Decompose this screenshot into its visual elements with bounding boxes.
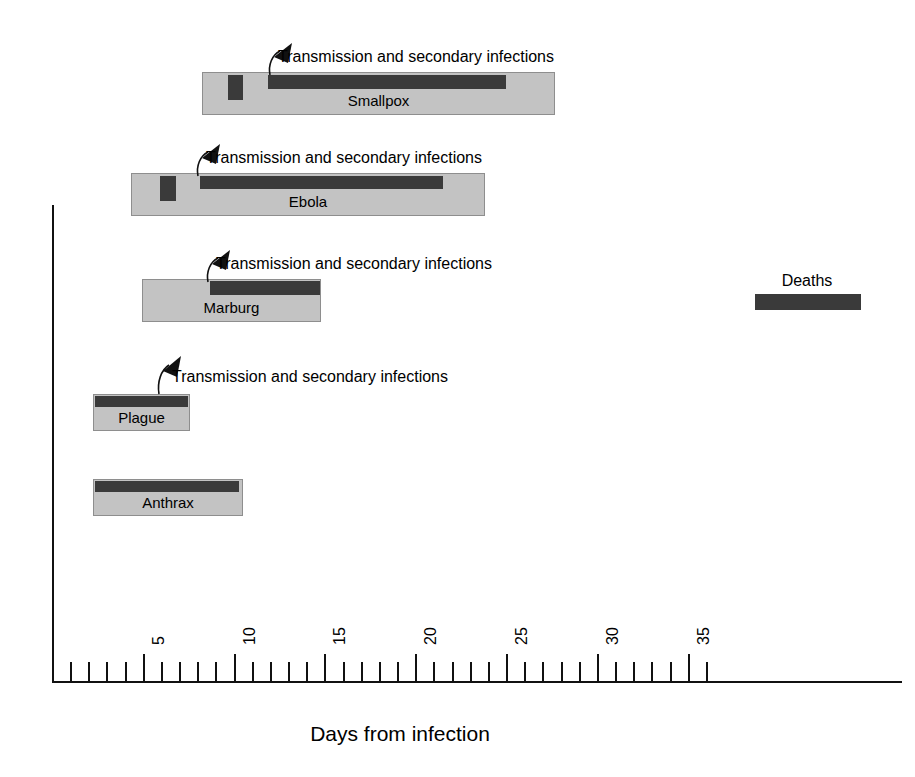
- x-axis-minor-tick: [670, 662, 672, 681]
- legend-label-deaths: Deaths: [752, 272, 862, 290]
- x-axis-minor-tick: [561, 662, 563, 681]
- x-axis-title: Days from infection: [230, 722, 570, 746]
- x-axis-major-tick: [143, 654, 145, 681]
- x-axis-minor-tick: [433, 662, 435, 681]
- x-axis-major-tick: [234, 654, 236, 681]
- x-axis-minor-tick: [106, 662, 108, 681]
- x-axis-minor-tick: [252, 662, 254, 681]
- x-axis-minor-tick: [270, 662, 272, 681]
- x-axis-minor-tick: [70, 662, 72, 681]
- x-axis-major-tick: [597, 654, 599, 681]
- deaths-band-anthrax: [95, 481, 239, 492]
- x-axis-tick-label: 15: [331, 627, 349, 645]
- bar-label-plague: Plague: [93, 409, 190, 426]
- x-axis-tick-label: 10: [241, 627, 259, 645]
- bar-group-anthrax: Anthrax: [93, 479, 243, 516]
- x-axis-minor-tick: [288, 662, 290, 681]
- x-axis-minor-tick: [397, 662, 399, 681]
- x-axis-minor-tick: [379, 662, 381, 681]
- x-axis-minor-tick: [524, 662, 526, 681]
- x-axis-major-tick: [415, 654, 417, 681]
- x-axis-minor-tick: [651, 662, 653, 681]
- x-axis-minor-tick: [215, 662, 217, 681]
- x-axis-minor-tick: [361, 662, 363, 681]
- x-axis-minor-tick: [470, 662, 472, 681]
- x-axis-minor-tick: [542, 662, 544, 681]
- callout-text-plague: Transmission and secondary infections: [172, 368, 448, 386]
- x-axis-line: [52, 681, 902, 683]
- chart-canvas: Smallpox Transmission and secondary infe…: [0, 0, 915, 777]
- x-axis-minor-tick: [706, 662, 708, 681]
- y-axis-line: [52, 205, 54, 683]
- callout-text-ebola: Transmission and secondary infections: [206, 149, 482, 167]
- x-axis-major-tick: [688, 654, 690, 681]
- x-axis-minor-tick: [488, 662, 490, 681]
- bar-group-smallpox: Smallpox: [202, 72, 555, 115]
- x-axis-minor-tick: [579, 662, 581, 681]
- bar-label-marburg: Marburg: [142, 299, 321, 316]
- x-axis-tick-label: 20: [422, 627, 440, 645]
- x-axis-minor-tick: [452, 662, 454, 681]
- x-axis-minor-tick: [615, 662, 617, 681]
- x-axis-minor-tick: [306, 662, 308, 681]
- bar-label-smallpox: Smallpox: [202, 92, 555, 109]
- x-axis-tick-label: 30: [604, 627, 622, 645]
- x-axis-major-tick: [324, 654, 326, 681]
- bar-group-ebola: Ebola: [131, 173, 485, 216]
- callout-text-marburg: Transmission and secondary infections: [216, 255, 492, 273]
- x-axis-minor-tick: [633, 662, 635, 681]
- x-axis-tick-label: 5: [150, 636, 168, 645]
- bar-label-ebola: Ebola: [131, 193, 485, 210]
- x-axis-major-tick: [506, 654, 508, 681]
- x-axis-minor-tick: [197, 662, 199, 681]
- x-axis-tick-label: 25: [513, 627, 531, 645]
- x-axis-minor-tick: [161, 662, 163, 681]
- x-axis-minor-tick: [343, 662, 345, 681]
- x-axis-minor-tick: [125, 662, 127, 681]
- bar-label-anthrax: Anthrax: [93, 494, 243, 511]
- x-axis-minor-tick: [179, 662, 181, 681]
- legend-swatch-deaths: [755, 294, 861, 310]
- x-axis-minor-tick: [88, 662, 90, 681]
- callout-text-smallpox: Transmission and secondary infections: [278, 48, 554, 66]
- x-axis-tick-label: 35: [695, 627, 713, 645]
